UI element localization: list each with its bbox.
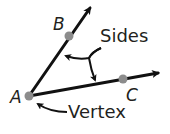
- label-b: B: [53, 14, 65, 34]
- label-a: A: [9, 87, 22, 107]
- label-sides: Sides: [100, 25, 148, 46]
- sides-arrow-to-ac: [89, 48, 101, 80]
- point-c: [119, 75, 128, 84]
- label-c: C: [126, 85, 138, 105]
- vertex-arrow: [38, 104, 67, 112]
- label-vertex: Vertex: [68, 101, 126, 122]
- point-b: [65, 32, 74, 41]
- point-a: [25, 92, 34, 101]
- sides-arrow-to-ab: [66, 48, 101, 59]
- angle-diagram: A B C Sides Vertex: [0, 0, 170, 134]
